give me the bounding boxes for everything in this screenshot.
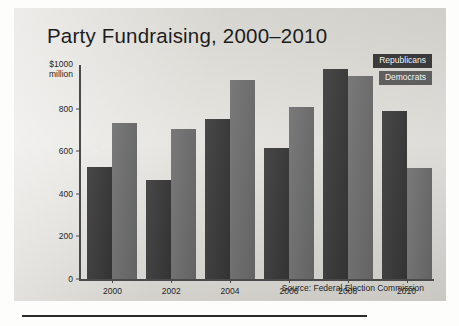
x-axis-line — [79, 279, 434, 281]
y-tick-label: 400 — [59, 189, 73, 199]
y-tick-label: 0 — [68, 274, 73, 284]
x-tick-label-2004: 2004 — [221, 286, 240, 296]
bar-democrats-2000[interactable] — [112, 123, 137, 279]
y-axis-title-line2: million — [49, 70, 73, 80]
bar-democrats-2002[interactable] — [171, 129, 196, 279]
y-tick-mark — [76, 279, 80, 280]
bar-republicans-2010[interactable] — [382, 111, 407, 279]
bar-republicans-2006[interactable] — [264, 148, 289, 279]
bar-republicans-2004[interactable] — [205, 119, 230, 279]
chart-title: Party Fundraising, 2000–2010 — [47, 24, 327, 48]
bar-republicans-2002[interactable] — [146, 180, 171, 279]
bar-group: 2002 — [146, 66, 196, 279]
bar-group: 2006 — [264, 66, 314, 279]
bar-democrats-2008[interactable] — [348, 76, 373, 279]
bar-republicans-2008[interactable] — [323, 69, 348, 279]
y-tick-mark — [76, 236, 80, 237]
y-axis-title: $1000 million — [49, 60, 73, 80]
bar-democrats-2004[interactable] — [230, 80, 255, 279]
page-background: Party Fundraising, 2000–2010 Republicans… — [0, 0, 459, 326]
y-tick-label: 600 — [59, 146, 73, 156]
bar-group: 2010 — [382, 66, 432, 279]
plot-area: $1000 million 0200400600800 200020022004… — [80, 66, 433, 279]
y-tick-label: 200 — [59, 231, 73, 241]
x-tick-label-2000: 2000 — [103, 286, 122, 296]
bar-group: 2008 — [323, 66, 373, 279]
bar-democrats-2010[interactable] — [407, 168, 432, 279]
y-tick-mark — [76, 108, 80, 109]
source-note: Source: Federal Election Commission — [282, 283, 424, 293]
x-tick-mark — [230, 279, 231, 283]
y-tick-mark — [76, 193, 80, 194]
bar-group: 2004 — [205, 66, 255, 279]
x-tick-mark — [112, 279, 113, 283]
bar-democrats-2006[interactable] — [289, 107, 314, 279]
y-tick-label: 800 — [59, 104, 73, 114]
bottom-divider — [22, 315, 367, 317]
bar-group: 2000 — [87, 66, 137, 279]
y-tick-mark — [76, 151, 80, 152]
chart-panel: Party Fundraising, 2000–2010 Republicans… — [14, 8, 446, 301]
x-tick-mark — [171, 279, 172, 283]
bar-republicans-2000[interactable] — [87, 167, 112, 279]
x-tick-label-2002: 2002 — [162, 286, 181, 296]
